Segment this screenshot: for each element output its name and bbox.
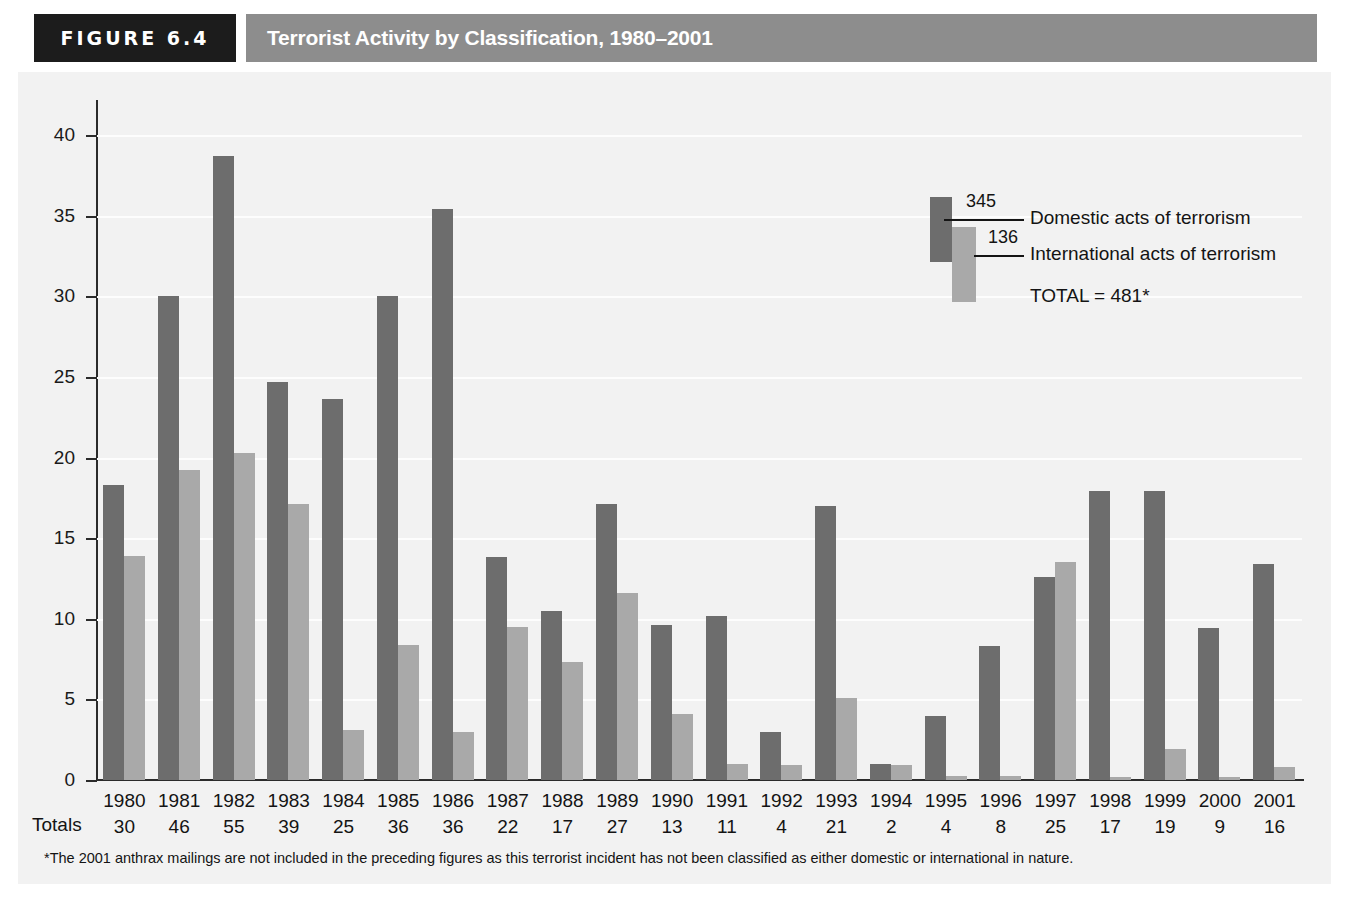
totals-row-label: Totals	[32, 814, 82, 836]
x-axis-total-value: 4	[754, 814, 810, 840]
bar-domestic[interactable]	[760, 732, 781, 780]
bar-international[interactable]	[1274, 767, 1295, 780]
x-axis-total-value: 55	[206, 814, 262, 840]
x-axis-column: 20009	[1192, 788, 1248, 840]
x-axis-column: 200116	[1247, 788, 1303, 840]
legend-international-value: 136	[988, 227, 1018, 248]
x-axis-total-value: 25	[315, 814, 371, 840]
x-axis-column: 198255	[206, 788, 262, 840]
x-axis-column: 199013	[644, 788, 700, 840]
x-axis-column: 199919	[1137, 788, 1193, 840]
x-axis-column: 199321	[808, 788, 864, 840]
figure-title: Terrorist Activity by Classification, 19…	[246, 14, 1317, 62]
x-axis-year-label: 1987	[480, 788, 536, 814]
x-axis-total-value: 36	[370, 814, 426, 840]
x-axis-total-value: 11	[699, 814, 755, 840]
chart-frame: 0510152025303540 345 Domestic acts of te…	[18, 72, 1331, 884]
bar-domestic[interactable]	[1144, 491, 1165, 780]
bar-international[interactable]	[1165, 749, 1186, 780]
x-axis-column: 198339	[261, 788, 317, 840]
x-axis-column: 19968	[973, 788, 1029, 840]
bar-domestic[interactable]	[1034, 577, 1055, 780]
bar-domestic[interactable]	[541, 611, 562, 780]
bar-international[interactable]	[398, 645, 419, 780]
x-axis-column: 198636	[425, 788, 481, 840]
bar-international[interactable]	[727, 764, 748, 780]
bar-domestic[interactable]	[870, 764, 891, 780]
bar-domestic[interactable]	[267, 382, 288, 780]
bar-international[interactable]	[836, 698, 857, 780]
bar-international[interactable]	[507, 627, 528, 780]
x-axis-year-label: 1984	[315, 788, 371, 814]
bar-domestic[interactable]	[322, 399, 343, 780]
y-axis-tick-label: 25	[35, 366, 75, 388]
bar-international[interactable]	[1000, 776, 1021, 780]
bar-international[interactable]	[453, 732, 474, 780]
x-axis-year-label: 2001	[1247, 788, 1303, 814]
x-axis-year-label: 1986	[425, 788, 481, 814]
x-axis-column: 19924	[754, 788, 810, 840]
bar-international[interactable]	[288, 504, 309, 780]
x-axis-year-label: 1988	[535, 788, 591, 814]
bar-international[interactable]	[1219, 777, 1240, 780]
x-axis-column: 198425	[315, 788, 371, 840]
legend-international-label: International acts of terrorism	[1030, 243, 1276, 265]
bar-domestic[interactable]	[432, 209, 453, 780]
bar-international[interactable]	[781, 765, 802, 780]
x-axis-total-value: 30	[96, 814, 152, 840]
bar-international[interactable]	[617, 593, 638, 780]
x-axis-column: 19942	[863, 788, 919, 840]
bar-domestic[interactable]	[486, 557, 507, 780]
legend-total-label: TOTAL = 481*	[1030, 285, 1150, 307]
x-axis-column: 199817	[1082, 788, 1138, 840]
legend-domestic-value: 345	[966, 191, 996, 212]
x-axis-year-label: 1985	[370, 788, 426, 814]
bar-international[interactable]	[946, 776, 967, 780]
x-axis-total-value: 16	[1247, 814, 1303, 840]
x-axis-total-value: 17	[535, 814, 591, 840]
y-axis-ticks: 0510152025303540	[18, 72, 97, 808]
bar-domestic[interactable]	[706, 616, 727, 780]
bar-international[interactable]	[124, 556, 145, 780]
bar-international[interactable]	[672, 714, 693, 780]
bar-domestic[interactable]	[377, 296, 398, 780]
bar-international[interactable]	[891, 765, 912, 780]
x-axis-column: 198817	[535, 788, 591, 840]
bar-domestic[interactable]	[815, 506, 836, 780]
x-axis-total-value: 27	[589, 814, 645, 840]
bar-domestic[interactable]	[596, 504, 617, 780]
bar-domestic[interactable]	[1253, 564, 1274, 780]
bar-domestic[interactable]	[979, 646, 1000, 780]
x-axis-column: 199725	[1028, 788, 1084, 840]
x-axis-year-label: 1982	[206, 788, 262, 814]
x-axis-year-label: 1999	[1137, 788, 1193, 814]
y-axis-tick-label: 40	[35, 124, 75, 146]
x-axis-year-label: 1995	[918, 788, 974, 814]
bar-domestic[interactable]	[158, 296, 179, 780]
x-axis-column: 198030	[96, 788, 152, 840]
bar-international[interactable]	[343, 730, 364, 780]
bar-domestic[interactable]	[103, 485, 124, 780]
x-axis-year-label: 1989	[589, 788, 645, 814]
x-axis-year-label: 2000	[1192, 788, 1248, 814]
x-axis-year-label: 1994	[863, 788, 919, 814]
bar-international[interactable]	[179, 470, 200, 780]
x-axis-total-value: 25	[1028, 814, 1084, 840]
bar-international[interactable]	[1110, 777, 1131, 780]
x-axis-column: 19954	[918, 788, 974, 840]
bar-domestic[interactable]	[651, 625, 672, 780]
bar-domestic[interactable]	[1198, 628, 1219, 780]
x-axis-total-value: 21	[808, 814, 864, 840]
bar-domestic[interactable]	[213, 156, 234, 780]
bar-international[interactable]	[562, 662, 583, 780]
bar-domestic[interactable]	[1089, 491, 1110, 780]
x-axis-year-label: 1981	[151, 788, 207, 814]
y-axis-tick-label: 30	[35, 285, 75, 307]
bar-domestic[interactable]	[925, 716, 946, 781]
x-axis-column: 198722	[480, 788, 536, 840]
bar-international[interactable]	[1055, 562, 1076, 780]
bar-international[interactable]	[234, 453, 255, 780]
x-axis-total-value: 19	[1137, 814, 1193, 840]
gridline	[97, 135, 1302, 137]
x-axis-column: 198146	[151, 788, 207, 840]
